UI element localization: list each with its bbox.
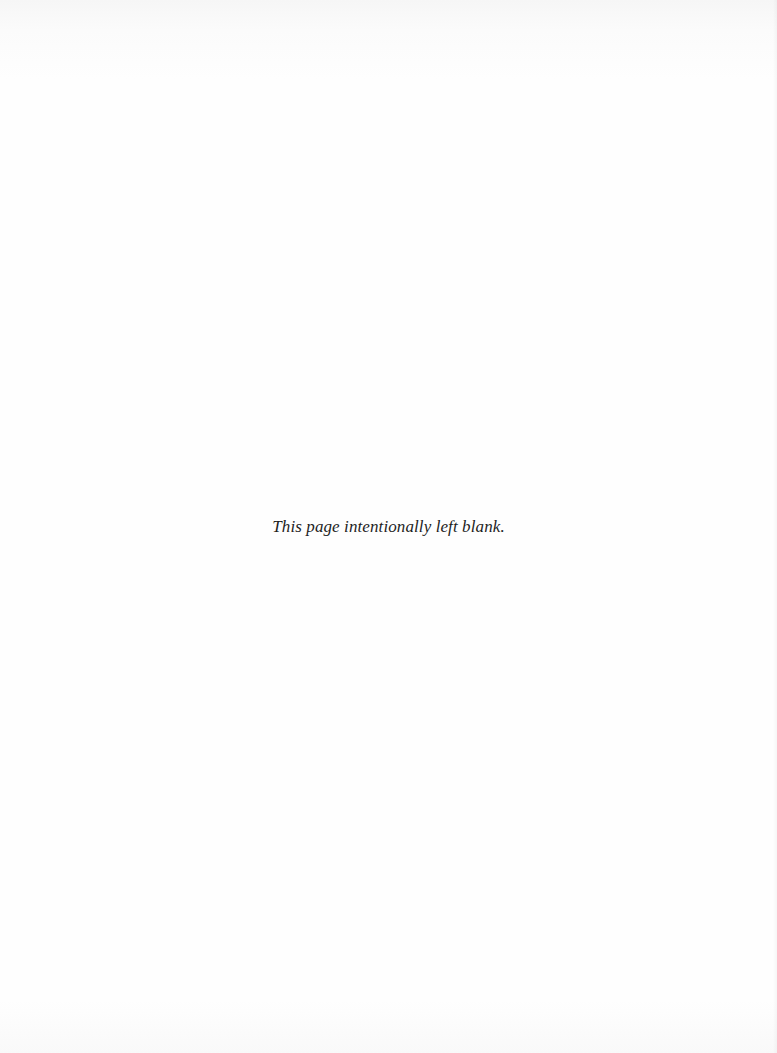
document-page: This page intentionally left blank. <box>0 0 777 1053</box>
blank-page-notice: This page intentionally left blank. <box>0 517 777 537</box>
